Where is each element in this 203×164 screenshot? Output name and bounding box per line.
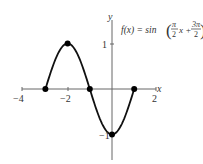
formula-lhs: f(x) = sin: [121, 25, 157, 36]
data-point: [109, 132, 115, 138]
data-point: [65, 41, 71, 47]
x-tick-label: −2: [60, 93, 71, 104]
x-tick-label: 2: [152, 93, 157, 104]
x-tick-label: −4: [13, 93, 24, 104]
data-point: [131, 86, 137, 92]
y-tick-label: 1: [102, 39, 107, 50]
function-graph: x y −4 −2 2 1 −1 f(x) = sin ( π 2 x + 3π…: [0, 0, 203, 164]
data-point: [42, 86, 48, 92]
formula-x: x +: [178, 25, 191, 35]
frac1-den: 2: [172, 30, 176, 39]
paren-right: ): [200, 21, 203, 40]
y-tick-label: −1: [99, 130, 110, 141]
frac2-den: 2: [194, 30, 198, 39]
frac1-num: π: [172, 20, 177, 29]
y-axis-label: y: [107, 11, 113, 22]
function-formula: f(x) = sin ( π 2 x + 3π 2 ): [121, 20, 203, 40]
data-point: [87, 86, 93, 92]
